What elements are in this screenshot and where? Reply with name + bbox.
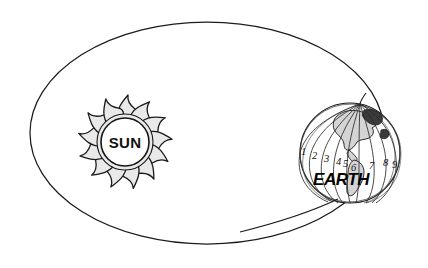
- diagram-canvas: SUN: [0, 0, 428, 268]
- meridian-number-2: 2: [312, 150, 318, 161]
- earth-axis-line: [360, 93, 366, 104]
- sun-label: SUN: [109, 134, 142, 151]
- earth-globe-group: 1 2 3 4 5 6 7 8 9 EARTH: [294, 93, 407, 208]
- earth-label: EARTH: [313, 170, 370, 189]
- orbit-foreground-segment: [240, 199, 338, 232]
- meridian-number-1: 1: [301, 146, 306, 157]
- meridian-number-3: 3: [323, 153, 329, 164]
- orbit-diagram: SUN: [0, 0, 428, 268]
- meridian-number-9: 9: [392, 159, 398, 170]
- meridian-number-8: 8: [383, 157, 389, 168]
- meridian-number-5: 5: [343, 158, 348, 169]
- meridian-number-4: 4: [336, 156, 342, 167]
- sun-group: SUN: [77, 95, 174, 191]
- meridian-number-7: 7: [369, 160, 375, 171]
